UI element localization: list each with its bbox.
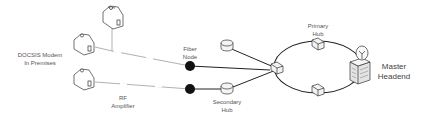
rf-amplifier-3 [120, 84, 127, 85]
secondary-hub-icon [221, 40, 233, 51]
coax-links [95, 28, 190, 89]
docsis-modem-label-line2: In Premises [15, 59, 65, 67]
secondary-hub-label-line1: Secondary [210, 98, 244, 106]
secondary-hub-label: Secondary Hub [210, 98, 244, 114]
rf-amplifier-2 [146, 57, 153, 59]
secondary-hub-icon [221, 83, 233, 94]
drop-line-house-2 [95, 47, 112, 51]
secondary-hub-label-line2: Hub [210, 106, 244, 114]
fiber-node-label-line2: Node [178, 53, 202, 61]
house-icon [74, 69, 94, 90]
primary-hub-label: Primary Hub [305, 22, 331, 38]
rf-amplifier-label-line1: RF [108, 94, 138, 102]
primary-hub-icon [271, 62, 283, 74]
rf-amplifier-label: RF Amplifier [108, 94, 138, 110]
fiber-line-secondary1-primary [227, 47, 276, 68]
fiber-line-node1-hub [190, 66, 270, 70]
primary-hub-label-line2: Hub [305, 30, 331, 38]
coax-line-lower [95, 82, 190, 89]
master-headend-label-line2: Headend [374, 72, 414, 82]
docsis-modem-label-line1: DOCSIS Modem [15, 51, 65, 59]
primary-hub-label-line1: Primary [305, 22, 331, 30]
fiber-line-secondary2-primary [228, 70, 276, 89]
master-headend-label: Master Headend [374, 62, 414, 82]
docsis-modem-label: DOCSIS Modem In Premises [15, 51, 65, 67]
rf-amplifier-4 [155, 86, 162, 87]
primary-hub-icon [312, 38, 324, 50]
fiber-node-label: Fiber Node [178, 45, 202, 61]
fiber-node-icon [185, 84, 195, 94]
house-icon [74, 34, 94, 55]
master-headend-label-line1: Master [374, 62, 414, 72]
rf-amplifier-1 [114, 51, 121, 53]
fiber-node-label-line1: Fiber [178, 45, 202, 53]
rf-amplifier-label-line2: Amplifier [108, 102, 138, 110]
house-icon [103, 6, 123, 29]
fiber-node-icon [185, 61, 195, 71]
primary-hub-icon [312, 84, 324, 96]
